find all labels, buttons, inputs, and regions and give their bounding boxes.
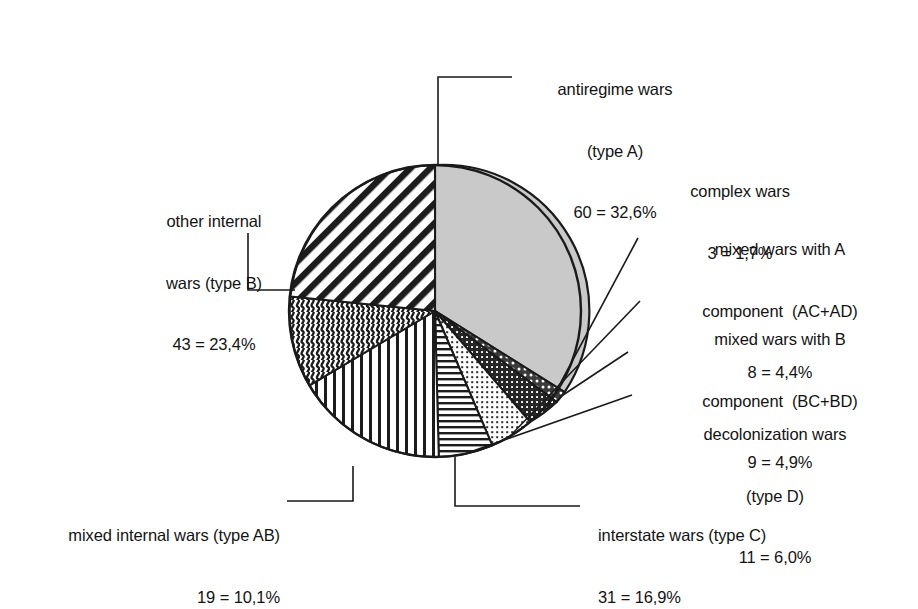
- slice-label-antiregime-name: antiregime wars: [490, 79, 740, 100]
- slice-label-other-internal: other internal wars (type B) 43 = 23,4%: [105, 170, 323, 396]
- slice-label-interstate-value: 31 = 16,9%: [598, 587, 878, 608]
- slice-label-other-internal-value: 43 = 23,4%: [105, 334, 323, 355]
- leader-line-mixed-internal: [287, 466, 353, 501]
- slice-label-other-internal-type: wars (type B): [105, 273, 323, 294]
- slice-label-mixed-b-name: mixed wars with B: [655, 329, 905, 350]
- slice-label-other-internal-name: other internal: [105, 211, 323, 232]
- slice-label-decolonization-name: decolonization wars: [655, 424, 895, 445]
- slice-label-mixed-internal: mixed internal wars (type AB) 19 = 10,1%: [10, 484, 280, 609]
- slice-label-mixed-internal-name: mixed internal wars (type AB): [10, 525, 280, 546]
- slice-label-mixed-internal-value: 19 = 10,1%: [10, 587, 280, 608]
- slice-label-interstate: interstate wars (type C) 31 = 16,9%: [598, 484, 878, 609]
- slice-label-interstate-name: interstate wars (type C): [598, 525, 878, 546]
- leader-line-interstate: [455, 457, 580, 506]
- slice-label-mixed-a-name: mixed wars with A: [655, 239, 905, 260]
